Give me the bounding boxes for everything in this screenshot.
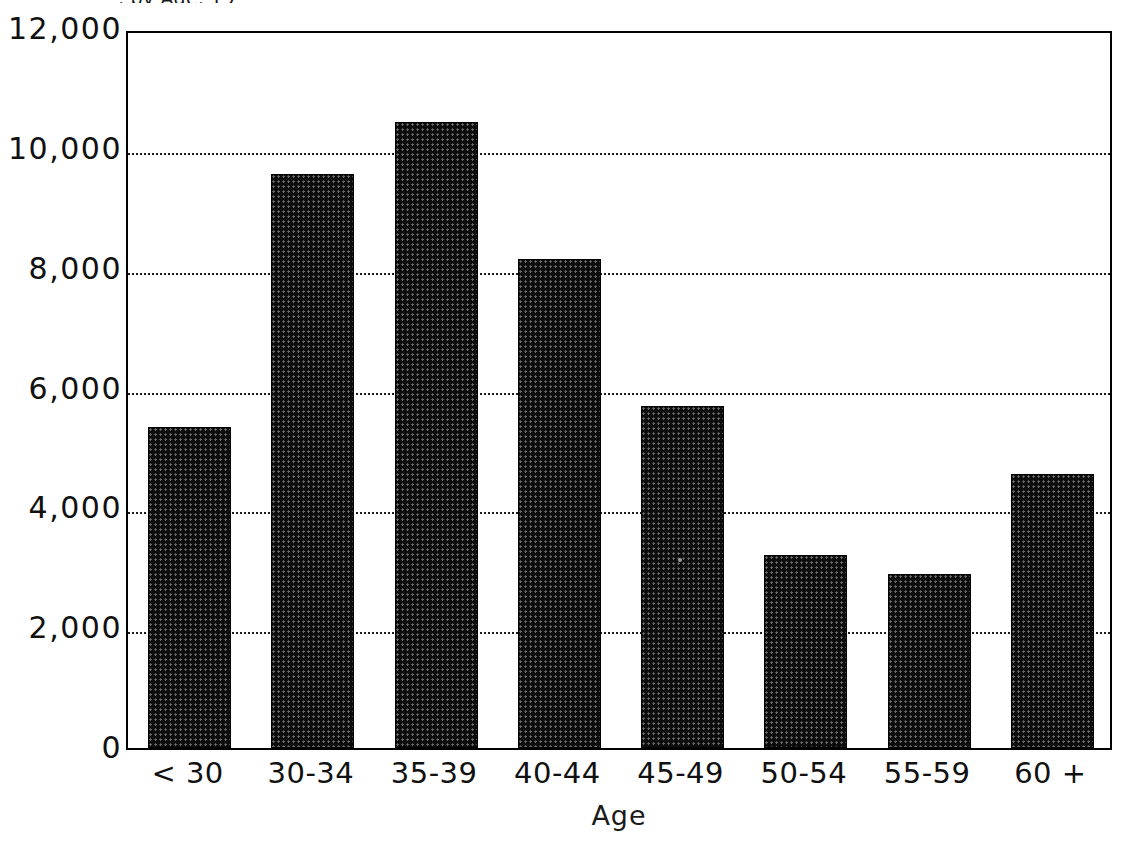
bar (764, 555, 847, 748)
x-axis-tick-label: 45-49 (611, 756, 751, 790)
y-axis-tick-label: 6,000 (4, 374, 122, 404)
x-axis-tick-label: < 30 (118, 756, 258, 790)
bar (1011, 474, 1094, 748)
bar-chart: , by Age, 19 12,00010,0008,0006,0004,000… (0, 0, 1121, 846)
x-axis-tick-label: 60 + (980, 756, 1120, 790)
chart-title: , by Age, 19 (118, 0, 1018, 3)
plot-area (126, 31, 1112, 750)
x-axis: < 3030-3435-3940-4445-4950-5455-5960 + (126, 756, 1112, 800)
y-axis-tick-label: 4,000 (4, 493, 122, 523)
bar (271, 174, 354, 748)
y-axis: 12,00010,0008,0006,0004,0002,0000 (0, 0, 122, 846)
x-axis-tick-label: 50-54 (734, 756, 874, 790)
y-axis-tick-label: 12,000 (4, 14, 122, 44)
bar (518, 259, 601, 748)
x-axis-tick-label: 30-34 (241, 756, 381, 790)
x-axis-tick-label: 35-39 (364, 756, 504, 790)
x-axis-title: Age (126, 800, 1112, 831)
y-axis-tick-label: 10,000 (4, 134, 122, 164)
bar (888, 574, 971, 748)
x-axis-tick-label: 40-44 (487, 756, 627, 790)
y-axis-tick-label: 8,000 (4, 254, 122, 284)
bar (641, 406, 724, 748)
bars-layer (128, 33, 1110, 748)
y-axis-tick-label: 2,000 (4, 613, 122, 643)
bar (395, 122, 478, 748)
scan-artifact-speck (678, 558, 682, 562)
x-axis-tick-label: 55-59 (857, 756, 997, 790)
bar (148, 427, 231, 748)
y-axis-tick-label: 0 (4, 733, 122, 763)
